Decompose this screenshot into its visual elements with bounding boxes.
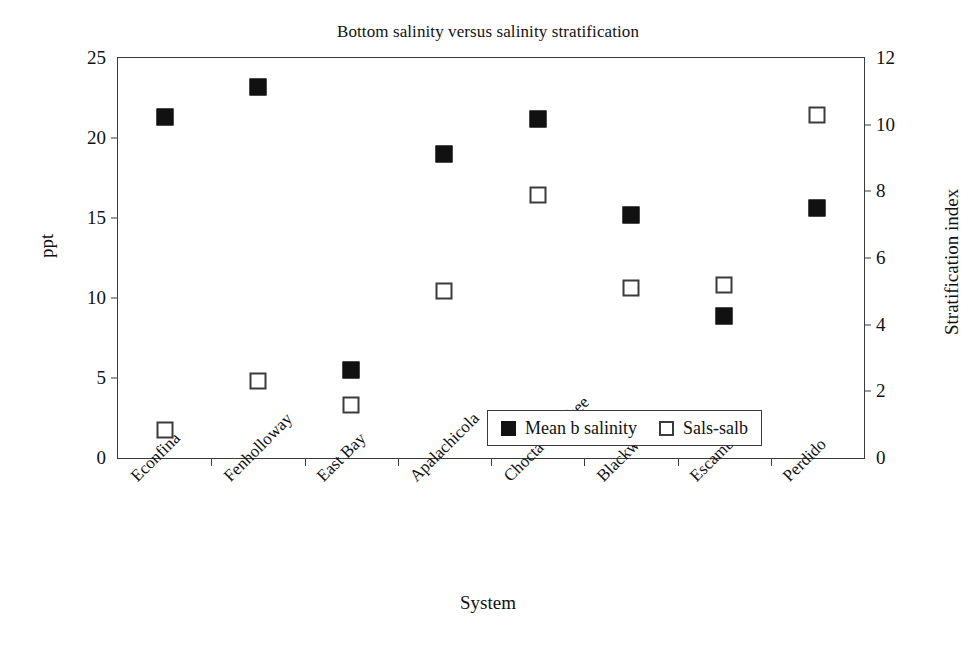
data-point-marker (622, 206, 639, 223)
data-point-marker (436, 283, 453, 300)
x-axis-tick-label: Fenholloway (220, 409, 297, 486)
x-axis-label: System (0, 592, 976, 614)
data-point-marker (156, 109, 173, 126)
x-axis-tick-mark (584, 458, 585, 466)
data-point-marker (716, 276, 733, 293)
x-axis-tick-mark (678, 458, 679, 466)
y-axis-left-tick-mark (111, 298, 118, 299)
x-axis-tick-mark (771, 458, 772, 466)
x-axis-tick-mark (211, 458, 212, 466)
y-axis-left-tick-label: 25 (87, 47, 118, 69)
x-axis-tick-label: Perdido (779, 435, 831, 487)
x-axis-tick-mark (305, 458, 306, 466)
y-axis-right-label: Stratification index (941, 189, 963, 335)
y-axis-right-tick-mark (864, 124, 871, 125)
data-point-marker (249, 78, 266, 95)
chart-figure: Bottom salinity versus salinity stratifi… (0, 0, 976, 646)
x-axis-tick-mark (398, 458, 399, 466)
legend-label: Mean b salinity (525, 418, 637, 439)
legend-item-sals-salb: Sals-salb (659, 418, 748, 439)
y-axis-left-tick-mark (111, 378, 118, 379)
data-point-marker (436, 146, 453, 163)
y-axis-left-tick-mark (111, 218, 118, 219)
x-axis-tick-label: Apalachicola (406, 409, 484, 487)
chart-title: Bottom salinity versus salinity stratifi… (0, 22, 976, 42)
y-axis-left-label: ppt (36, 234, 58, 258)
x-axis-tick-mark (491, 458, 492, 466)
data-point-marker (343, 362, 360, 379)
y-axis-right-tick-label: 0 (864, 447, 886, 469)
data-point-marker (343, 396, 360, 413)
legend-label: Sals-salb (683, 418, 748, 439)
data-point-marker (529, 186, 546, 203)
y-axis-right-tick-mark (864, 258, 871, 259)
y-axis-right-tick-mark (864, 191, 871, 192)
y-axis-right-tick-mark (864, 391, 871, 392)
data-point-marker (249, 373, 266, 390)
data-point-marker (156, 421, 173, 438)
y-axis-left-tick-label: 0 (97, 447, 119, 469)
data-point-marker (809, 200, 826, 217)
data-point-marker (529, 110, 546, 127)
y-axis-right-tick-mark (864, 324, 871, 325)
x-axis-tick-label: East Bay (313, 429, 370, 486)
data-point-marker (622, 280, 639, 297)
data-point-marker (809, 106, 826, 123)
open-square-icon (659, 421, 674, 436)
y-axis-right-tick-label: 12 (864, 47, 895, 69)
plot-area: 0510152025024681012EconfinaFenhollowayEa… (117, 57, 865, 459)
chart-legend: Mean b salinity Sals-salb (487, 410, 762, 446)
y-axis-left-tick-mark (111, 138, 118, 139)
legend-item-mean-b-salinity: Mean b salinity (501, 418, 637, 439)
filled-square-icon (501, 421, 516, 436)
data-point-marker (716, 307, 733, 324)
